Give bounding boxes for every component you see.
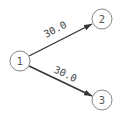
node-2: 2 [92,9,112,29]
edge-weight-label: 30.0 [52,64,78,84]
graph-diagram: 30.0 30.0 1 2 3 [0,0,122,119]
edge-1-2: 30.0 [29,19,92,56]
node-3: 3 [92,90,112,110]
node-label: 3 [99,95,105,106]
edge-weight-label: 30.0 [42,19,68,40]
node-1: 1 [10,51,30,71]
node-label: 2 [99,14,105,25]
node-label: 1 [17,56,23,67]
edge-1-3: 30.0 [29,64,92,96]
